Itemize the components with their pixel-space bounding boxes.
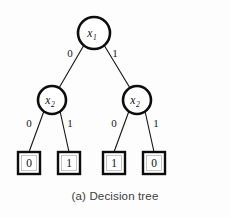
decision-tree-diagram: 0 1 0 1 0 1 x1 x2 x2	[0, 0, 230, 217]
right-node-subscript: 2	[136, 100, 140, 109]
leaf-node-11: 0	[143, 152, 165, 174]
node-right-x2: x2	[123, 86, 151, 114]
decision-tree-figure: 0 1 0 1 0 1 x1 x2 x2	[0, 0, 230, 217]
edge-label-left-zero: 0	[26, 117, 32, 129]
leaf-node-00: 0	[18, 152, 40, 174]
leaf-node-10: 1	[103, 152, 125, 174]
leaf-01-value: 1	[66, 157, 72, 169]
edge-label-right-one: 1	[153, 117, 159, 129]
leaf-00-value: 0	[26, 157, 32, 169]
figure-caption: (a) Decision tree	[0, 190, 230, 202]
node-root: x1	[78, 17, 110, 49]
edge-label-left-one: 1	[67, 117, 73, 129]
root-node-subscript: 1	[93, 33, 97, 42]
edge-label-root-left: 0	[67, 47, 73, 59]
edge-label-right-zero: 0	[111, 117, 117, 129]
node-left-x2: x2	[38, 86, 66, 114]
left-node-subscript: 2	[51, 100, 55, 109]
leaf-node-01: 1	[58, 152, 80, 174]
edge-label-root-right: 1	[112, 47, 118, 59]
leaf-10-value: 1	[111, 157, 117, 169]
leaf-11-value: 0	[151, 157, 157, 169]
